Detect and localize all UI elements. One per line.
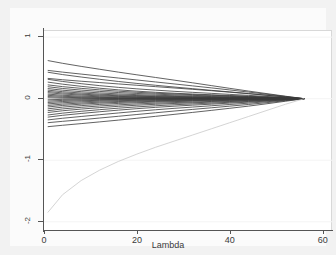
chart-canvas: 10-1-2 0204060 — [10, 8, 326, 246]
x-axis-title: Lambda — [0, 240, 336, 250]
y-axis-tick-label: 0 — [23, 89, 32, 105]
y-axis-tick — [38, 98, 43, 99]
x-axis-tick — [137, 230, 138, 234]
x-axis-tick — [323, 230, 324, 234]
x-axis-tick — [230, 230, 231, 234]
y-axis-tick — [38, 159, 43, 160]
y-axis-tick — [38, 221, 43, 222]
x-axis-line — [43, 230, 333, 231]
x-axis-tick — [44, 230, 45, 234]
chart-figure: 10-1-2 0204060 Lambda — [0, 0, 336, 255]
plot-area — [44, 30, 332, 230]
y-axis-tick-label: -1 — [23, 151, 32, 167]
y-axis-tick-label: 1 — [23, 28, 32, 44]
y-axis-tick-label: -2 — [23, 212, 32, 228]
y-axis-line — [43, 28, 44, 232]
y-axis-tick — [38, 36, 43, 37]
coefficient-paths-svg — [44, 31, 332, 231]
